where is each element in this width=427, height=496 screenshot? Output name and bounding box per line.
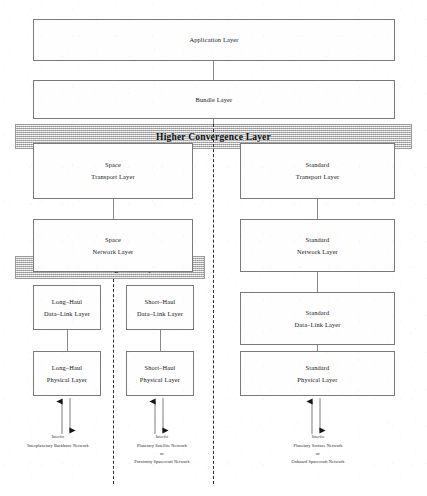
- box-bundle-layer: Bundle Layer: [33, 80, 395, 119]
- bidirectional-arrow-shorthaul: [149, 398, 173, 434]
- network-caption-shorthaul-name1: Planetary Satellite Network: [112, 442, 212, 450]
- box-space-network-layer: Space Network Layer: [33, 219, 193, 272]
- box-longhaul-datalink-layer-line1: Long–Haul: [52, 296, 82, 308]
- box-space-transport-layer-line2: Transport Layer: [91, 171, 134, 183]
- network-caption-standard-name2: Onboard Spacecraft Network: [268, 458, 368, 466]
- box-standard-network-layer-line2: Network Layer: [297, 246, 338, 258]
- box-standard-transport-layer-line2: Transport Layer: [296, 171, 339, 183]
- box-shorthaul-physical-layer: Short–Haul Physical Layer: [126, 351, 194, 396]
- box-standard-datalink-layer-line2: Data–Link Layer: [294, 319, 340, 331]
- box-standard-datalink-layer: Standard Data–Link Layer: [240, 292, 395, 345]
- bidirectional-arrow-longhaul: [56, 398, 80, 434]
- box-space-network-layer-line1: Space: [105, 234, 121, 246]
- network-caption-shorthaul-header: Interfic: [112, 434, 212, 442]
- box-space-transport-layer-line1: Space: [105, 159, 121, 171]
- connector-standard-network-to-standard-datalink: [317, 272, 318, 292]
- box-space-transport-layer: Space Transport Layer: [33, 143, 193, 199]
- box-standard-network-layer: Standard Network Layer: [240, 219, 395, 272]
- connector-application-to-bundle: [213, 61, 214, 80]
- network-caption-standard-name1: Planetary Surface Network: [268, 442, 368, 450]
- network-caption-standard-connector: or: [268, 450, 368, 458]
- box-longhaul-physical-layer: Long–Haul Physical Layer: [33, 351, 101, 396]
- box-longhaul-datalink-layer: Long–Haul Data–Link Layer: [33, 285, 101, 330]
- box-application-layer: Application Layer: [33, 19, 395, 61]
- bidirectional-arrow-standard: [306, 398, 330, 434]
- dashed-separator-space-standard: [213, 124, 214, 484]
- box-space-network-layer-line2: Network Layer: [93, 246, 134, 258]
- network-caption-shorthaul-name2: Proximity Spacecraft Network: [112, 458, 212, 466]
- network-caption-longhaul: Interfic Interplanetary Backbone Network: [7, 434, 109, 450]
- box-standard-network-layer-line1: Standard: [306, 234, 330, 246]
- box-standard-physical-layer-line1: Standard: [306, 362, 330, 374]
- box-bundle-layer-line1: Bundle Layer: [196, 94, 233, 106]
- connector-standard-transport-to-standard-network: [317, 199, 318, 219]
- box-shorthaul-physical-layer-line2: Physical Layer: [140, 374, 180, 386]
- box-shorthaul-datalink-layer-line1: Short–Haul: [145, 296, 176, 308]
- network-caption-longhaul-header: Interfic: [7, 434, 109, 442]
- network-caption-longhaul-name1: Interplanetary Backbone Network: [7, 442, 109, 450]
- network-caption-shorthaul: Interfic Planetary Satellite Network or …: [112, 434, 212, 467]
- network-caption-standard: Interfic Planetary Surface Network or On…: [268, 434, 368, 467]
- connector-shorthaul-datalink-to-physical: [160, 330, 161, 351]
- box-standard-transport-layer-line1: Standard: [306, 159, 330, 171]
- connector-space-transport-to-space-network: [113, 199, 114, 219]
- box-longhaul-datalink-layer-line2: Data–Link Layer: [44, 308, 90, 320]
- box-shorthaul-physical-layer-line1: Short–Haul: [145, 362, 176, 374]
- box-standard-datalink-layer-line1: Standard: [306, 307, 330, 319]
- box-application-layer-line1: Application Layer: [189, 34, 238, 46]
- network-caption-shorthaul-connector: or: [112, 450, 212, 458]
- protocol-stack-diagram: Higher Convergence Layer Lower Convergen…: [0, 0, 427, 496]
- network-caption-standard-header: Interfic: [268, 434, 368, 442]
- box-standard-physical-layer-line2: Physical Layer: [297, 374, 337, 386]
- box-standard-physical-layer: Standard Physical Layer: [240, 351, 395, 396]
- dashed-separator-longhaul-shorthaul: [113, 279, 114, 484]
- connector-longhaul-datalink-to-physical: [67, 330, 68, 351]
- box-longhaul-physical-layer-line1: Long–Haul: [52, 362, 82, 374]
- box-longhaul-physical-layer-line2: Physical Layer: [47, 374, 87, 386]
- box-shorthaul-datalink-layer-line2: Data–Link Layer: [137, 308, 183, 320]
- box-shorthaul-datalink-layer: Short–Haul Data–Link Layer: [126, 285, 194, 330]
- box-standard-transport-layer: Standard Transport Layer: [240, 143, 395, 199]
